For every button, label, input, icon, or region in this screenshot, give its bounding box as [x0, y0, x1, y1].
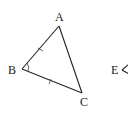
geometry-diagram: A B C E: [0, 0, 128, 114]
side-bc: [22, 69, 82, 93]
vertex-label-b: B: [8, 63, 16, 77]
vertex-label-a: A: [55, 10, 64, 24]
vertex-label-e: E: [111, 63, 118, 77]
vertex-label-c: C: [80, 95, 88, 109]
side-ab: [22, 26, 59, 69]
side-ac: [59, 26, 82, 93]
partial-angle-e: [122, 64, 128, 74]
angle-mark-b: [27, 63, 29, 71]
triangle-abc: [22, 26, 82, 93]
